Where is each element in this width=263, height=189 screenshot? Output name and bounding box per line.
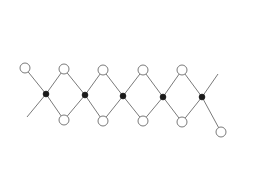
open-circle-node: [138, 116, 148, 126]
open-circle-node: [177, 117, 187, 127]
open-circle-node: [138, 65, 148, 75]
solid-black-nodes: [43, 91, 205, 100]
solid-black-node: [43, 91, 49, 97]
bond-lines: [25, 68, 221, 132]
chain-diagram: [0, 0, 263, 189]
open-circle-node: [216, 127, 226, 137]
chain-tail-line: [27, 94, 46, 117]
solid-black-node: [120, 93, 126, 99]
open-circle-node: [98, 116, 108, 126]
open-circle-node: [20, 63, 30, 73]
open-circle-node: [177, 65, 187, 75]
open-circle-node: [59, 64, 69, 74]
solid-black-node: [82, 92, 88, 98]
bond-line: [202, 97, 221, 132]
chain-tail-line: [202, 74, 218, 97]
solid-black-node: [199, 94, 205, 100]
open-circle-node: [98, 65, 108, 75]
open-circle-node: [59, 115, 69, 125]
solid-black-node: [160, 94, 166, 100]
open-circle-nodes: [20, 63, 226, 137]
